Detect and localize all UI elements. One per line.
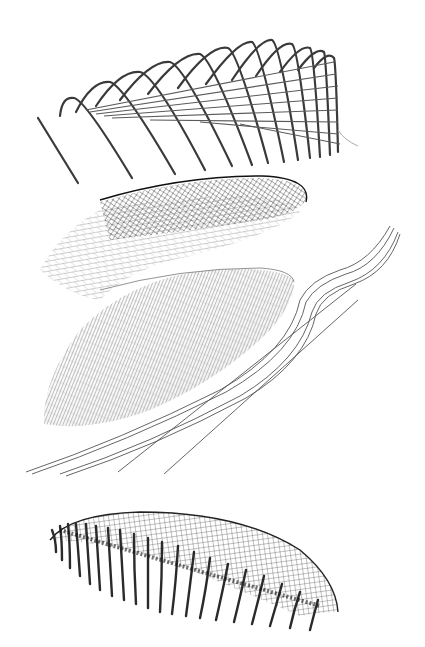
exploded-diagram [0,0,425,647]
assembled-structure-layer [0,0,425,647]
